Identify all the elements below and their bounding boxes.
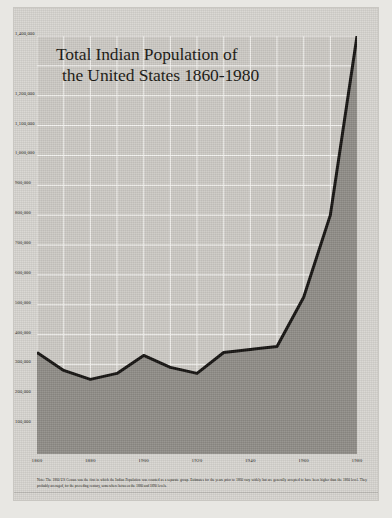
chart-footnote: Note: The 1860 US Census was the first i… bbox=[37, 478, 367, 489]
y-axis-tick-label: 100,000 bbox=[15, 419, 31, 424]
y-axis-tick-label: 1,200,000 bbox=[15, 90, 35, 95]
x-axis-tick-label: 1920 bbox=[192, 458, 203, 463]
x-axis-tick-label: 1960 bbox=[298, 458, 309, 463]
poster-panel: 100,000200,000300,000400,000500,000600,0… bbox=[14, 8, 378, 500]
x-axis-tick-label: 1900 bbox=[138, 458, 149, 463]
population-area-chart bbox=[37, 36, 357, 454]
x-axis-tick-label: 1860 bbox=[32, 458, 43, 463]
y-axis-tick-label: 500,000 bbox=[15, 299, 31, 304]
y-axis-tick-label: 1,000,000 bbox=[15, 150, 35, 155]
bottom-divider bbox=[14, 492, 378, 493]
y-axis-tick-label: 800,000 bbox=[15, 210, 31, 215]
x-axis-tick-label: 1980 bbox=[352, 458, 363, 463]
x-axis-tick-label: 1940 bbox=[245, 458, 256, 463]
y-axis-tick-label: 400,000 bbox=[15, 329, 31, 334]
y-axis-tick-label: 1,400,000 bbox=[15, 31, 35, 36]
x-axis-tick-label: 1880 bbox=[85, 458, 96, 463]
chart-title: Total Indian Population of the United St… bbox=[56, 44, 306, 87]
y-axis-tick-label: 900,000 bbox=[15, 180, 31, 185]
y-axis-tick-label: 200,000 bbox=[15, 389, 31, 394]
chart-title-line-2: the United States 1860-1980 bbox=[56, 65, 306, 86]
y-axis-tick-label: 1,100,000 bbox=[15, 120, 35, 125]
y-axis-tick-label: 600,000 bbox=[15, 269, 31, 274]
y-axis-tick-label: 700,000 bbox=[15, 240, 31, 245]
chart-title-line-1: Total Indian Population of bbox=[56, 44, 237, 64]
y-axis-tick-label: 300,000 bbox=[15, 359, 31, 364]
chart-plot-area bbox=[37, 36, 357, 454]
